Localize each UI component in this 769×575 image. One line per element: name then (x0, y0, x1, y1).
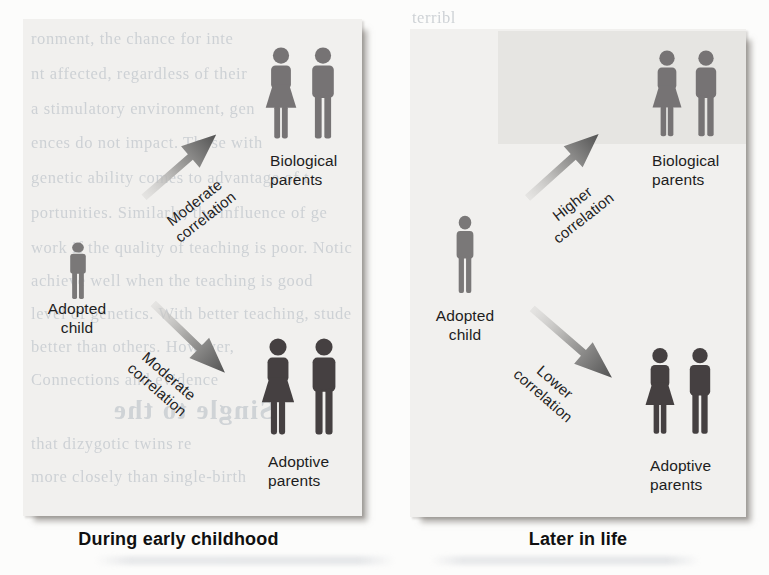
adopted-child-label: Adopted child (423, 306, 507, 344)
label-line: child (35, 318, 119, 337)
adoptive-parents-icons (259, 334, 343, 438)
bleedthrough-smudge (95, 556, 395, 565)
woman-icon (650, 42, 684, 144)
woman-icon (643, 343, 677, 438)
label-line: parents (268, 471, 329, 490)
label-line: Adopted (423, 306, 507, 325)
label-line: Adopted (35, 299, 119, 318)
caption-during-early-childhood: During early childhood (9, 529, 348, 550)
bleedthrough-fragment: terribl (412, 8, 456, 28)
panel-later-in-life: Biological parents Higher correlation Ad… (410, 29, 746, 517)
adopted-child-icon (65, 242, 91, 299)
panel-during-early-childhood: ronment, the chance for inte nt affected… (23, 19, 362, 516)
adoptive-parents-label: Adoptive parents (650, 456, 711, 494)
man-icon (305, 42, 341, 143)
label-line: parents (652, 170, 719, 189)
adopted-child-icon (451, 215, 479, 293)
biological-parents-label: Biological parents (652, 151, 719, 189)
label-line: child (423, 325, 507, 344)
label-line: Biological (270, 151, 337, 170)
man-icon (305, 334, 343, 438)
label-line: Adoptive (650, 456, 711, 475)
biological-parents-icons (650, 42, 723, 144)
biological-parents-icons (263, 42, 341, 143)
label-line: Biological (652, 151, 719, 170)
adoptive-parents-icons (643, 343, 717, 438)
adopted-child-label: Adopted child (35, 299, 119, 337)
adoption-study-figure: terribl develop for th ference genetic p… (0, 0, 769, 575)
biological-parents-label: Biological parents (270, 151, 337, 189)
adoptive-parents-label: Adoptive parents (268, 452, 329, 490)
man-icon (683, 343, 717, 438)
man-icon (689, 42, 723, 144)
caption-later-in-life: Later in life (410, 529, 746, 550)
label-line: parents (270, 170, 337, 189)
bleedthrough-smudge (430, 556, 700, 565)
label-line: parents (650, 475, 711, 494)
woman-icon (259, 334, 297, 438)
label-line: Adoptive (268, 452, 329, 471)
woman-icon (263, 42, 299, 143)
